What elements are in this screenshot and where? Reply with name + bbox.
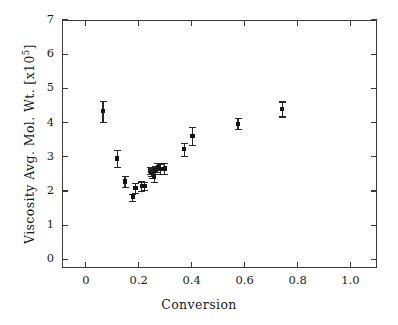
- data-marker: [115, 156, 119, 160]
- error-bar-cap-upper: [189, 127, 196, 128]
- x-tick-mark: [138, 262, 139, 268]
- x-tick-mark: [244, 20, 245, 26]
- error-bar-cap-lower: [235, 129, 242, 130]
- y-tick-label: 3: [47, 151, 54, 163]
- error-bar-cap-lower: [189, 145, 196, 146]
- error-bar-cap-upper: [157, 164, 164, 165]
- y-tick-mark: [62, 54, 68, 55]
- x-tick-label: 0.4: [183, 275, 201, 287]
- error-bar-cap-lower: [122, 187, 129, 188]
- data-marker: [163, 166, 167, 170]
- error-bar-cap-lower: [114, 167, 121, 168]
- x-tick-label: 0.2: [130, 275, 148, 287]
- y-tick-label: 6: [47, 48, 54, 60]
- error-bar-cap-lower: [161, 174, 168, 175]
- y-tick-mark: [62, 156, 68, 157]
- x-axis-title: Conversion: [0, 297, 398, 312]
- x-tick-mark: [350, 20, 351, 26]
- x-axis-tick-labels: 00.20.40.60.81.0: [62, 275, 377, 291]
- y-tick-mark: [371, 19, 377, 20]
- y-tick-mark: [371, 122, 377, 123]
- y-tick-label: 2: [47, 185, 54, 197]
- x-tick-label: 0.6: [235, 275, 253, 287]
- x-tick-mark: [297, 262, 298, 268]
- error-bar-cap-upper: [100, 101, 107, 102]
- x-tick-mark: [85, 262, 86, 268]
- x-tick-mark: [297, 20, 298, 26]
- y-tick-mark: [371, 190, 377, 191]
- error-bar-cap-lower: [141, 190, 148, 191]
- data-marker: [190, 134, 194, 138]
- x-tick-mark: [191, 20, 192, 26]
- data-marker: [133, 186, 137, 190]
- error-bar-cap-upper: [279, 101, 286, 102]
- y-tick-mark: [371, 88, 377, 89]
- y-tick-mark: [371, 156, 377, 157]
- data-marker: [101, 109, 105, 113]
- error-bar-cap-upper: [161, 163, 168, 164]
- y-tick-label: 0: [47, 254, 54, 266]
- data-marker: [123, 179, 127, 183]
- y-tick-mark: [62, 225, 68, 226]
- y-tick-mark: [62, 190, 68, 191]
- data-marker: [131, 195, 135, 199]
- data-marker: [280, 107, 284, 111]
- x-tick-mark: [244, 262, 245, 268]
- error-bar-cap-upper: [114, 150, 121, 151]
- y-tick-label: 1: [47, 219, 54, 231]
- x-tick-label: 1.0: [341, 275, 359, 287]
- plot-area: [62, 20, 377, 268]
- x-tick-label: 0.8: [288, 275, 306, 287]
- error-bar-cap-upper: [122, 176, 129, 177]
- y-tick-mark: [62, 122, 68, 123]
- error-bar-cap-lower: [100, 122, 107, 123]
- x-tick-mark: [138, 20, 139, 26]
- y-tick-mark: [62, 88, 68, 89]
- x-tick-mark: [85, 20, 86, 26]
- x-tick-mark: [191, 262, 192, 268]
- error-bar-cap-lower: [138, 191, 145, 192]
- y-tick-label: 5: [47, 83, 54, 95]
- y-axis-title: Viscosity Avg. Mol. Wt. [x105]: [21, 14, 37, 274]
- y-tick-mark: [371, 54, 377, 55]
- data-marker: [152, 175, 156, 179]
- x-tick-mark: [350, 262, 351, 268]
- data-marker: [142, 184, 146, 188]
- y-tick-label: 4: [47, 117, 54, 129]
- y-tick-mark: [62, 259, 68, 260]
- data-marker: [236, 122, 240, 126]
- error-bar-cap-lower: [279, 116, 286, 117]
- error-bar-cap-upper: [132, 183, 139, 184]
- chart-figure: 01234567 00.20.40.60.81.0 Viscosity Avg.…: [0, 0, 398, 325]
- error-bar-cap-lower: [181, 156, 188, 157]
- error-bar-cap-upper: [141, 182, 148, 183]
- error-bar-cap-upper: [235, 118, 242, 119]
- error-bar-cap-lower: [132, 193, 139, 194]
- error-bar-cap-upper: [181, 143, 188, 144]
- y-tick-label: 7: [47, 14, 54, 26]
- error-bar-cap-lower: [151, 182, 158, 183]
- data-marker: [182, 147, 186, 151]
- x-tick-label: 0: [82, 275, 89, 287]
- error-bar-cap-lower: [129, 201, 136, 202]
- y-tick-mark: [371, 259, 377, 260]
- y-tick-mark: [62, 19, 68, 20]
- y-tick-mark: [371, 225, 377, 226]
